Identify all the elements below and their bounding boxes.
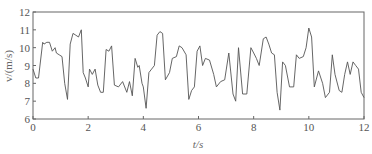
x-tick-label: 2 [85,121,91,133]
y-tick-label: 10 [19,42,31,54]
x-tick-label: 10 [303,121,315,133]
x-tick-label: 4 [141,121,147,133]
speed-series-line [33,28,364,110]
y-tick-label: 7 [25,95,31,107]
y-tick-label: 11 [19,24,30,36]
y-tick-label: 9 [25,60,31,72]
x-tick-label: 12 [359,121,370,133]
x-tick-label: 6 [196,121,202,133]
y-tick-label: 8 [25,77,31,89]
x-axis-title: t/s [193,138,203,150]
x-tick-label: 8 [251,121,257,133]
y-tick-label: 12 [19,6,30,18]
speed-time-chart: 6789101112 024681012 t/s v/(m/s) [0,0,372,154]
y-axis-title: v/(m/s) [2,50,15,82]
x-tick-label: 0 [30,121,36,133]
